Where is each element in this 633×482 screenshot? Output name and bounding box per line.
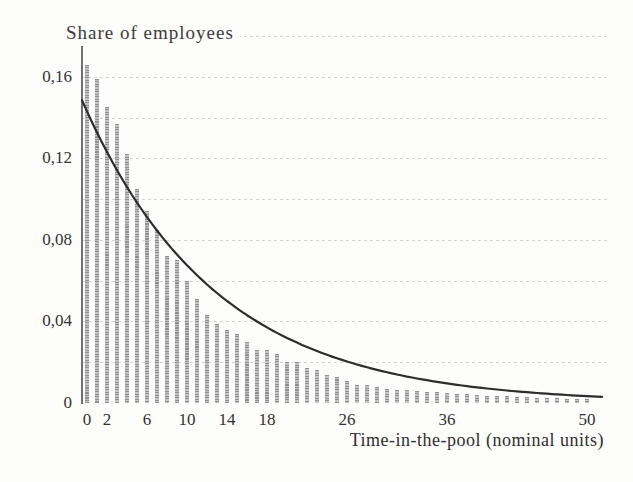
gridline (82, 321, 608, 322)
scanned-chart-figure: Share of employees 00,040,080,120,16 026… (0, 0, 633, 482)
bar (365, 385, 369, 403)
bar (565, 399, 569, 404)
bar (115, 124, 119, 403)
y-axis-tick-label: 0,12 (14, 148, 72, 168)
bar (295, 362, 299, 403)
bar (215, 324, 219, 404)
bar (225, 330, 229, 403)
gridline (82, 240, 608, 241)
bar (255, 350, 259, 403)
bar (275, 354, 279, 403)
bar (495, 396, 499, 403)
bar (145, 211, 149, 403)
bar (265, 350, 269, 403)
bar (545, 398, 549, 403)
gridline (82, 77, 608, 78)
bar (435, 392, 439, 403)
bar (185, 281, 189, 403)
bar (535, 398, 539, 404)
bar (415, 391, 419, 403)
bar (355, 385, 359, 403)
bar (485, 396, 489, 404)
bar (165, 256, 169, 403)
bar (335, 377, 339, 404)
chart-title: Share of employees (66, 22, 240, 46)
x-axis-tick-label: 6 (127, 410, 167, 430)
x-axis-title: Time-in-the-pool (nominal units) (350, 430, 604, 451)
bar (325, 375, 329, 404)
bar (95, 79, 99, 403)
bar (505, 396, 509, 403)
gridline (82, 118, 608, 119)
bar (405, 390, 409, 403)
gridline (82, 158, 608, 159)
gridline (82, 362, 608, 363)
bar (455, 394, 459, 403)
bar (555, 398, 559, 403)
bar (345, 381, 349, 403)
y-axis-tick-label: 0 (14, 393, 72, 413)
x-axis-tick-label: 26 (327, 410, 367, 430)
gridline (82, 281, 608, 282)
x-axis-tick-label: 10 (167, 410, 207, 430)
bar (175, 260, 179, 403)
y-axis-tick-label: 0,04 (14, 311, 72, 331)
gridline (82, 199, 608, 200)
bar (375, 387, 379, 403)
bar (85, 65, 89, 404)
bar (285, 362, 289, 403)
x-axis-tick-label: 36 (427, 410, 467, 430)
bar (585, 399, 589, 403)
bar (195, 299, 199, 403)
bar (305, 368, 309, 403)
x-axis-tick-label: 14 (207, 410, 247, 430)
y-axis-line (81, 36, 83, 404)
bar (105, 107, 109, 403)
bar (425, 392, 429, 403)
bar (525, 397, 529, 403)
bar (125, 154, 129, 403)
bar (575, 399, 579, 403)
bar (465, 394, 469, 403)
bar (385, 389, 389, 403)
bar (155, 230, 159, 403)
bar (515, 397, 519, 403)
bar (235, 334, 239, 403)
bar (315, 370, 319, 403)
bar (205, 315, 209, 403)
bar (445, 393, 449, 403)
bar (395, 390, 399, 403)
y-axis-tick-label: 0,16 (14, 67, 72, 87)
x-axis-tick-label: 2 (87, 410, 127, 430)
x-axis-tick-label: 18 (247, 410, 287, 430)
x-axis-tick-label: 50 (567, 410, 607, 430)
y-axis-tick-label: 0,08 (14, 230, 72, 250)
bar (475, 395, 479, 403)
bar (245, 342, 249, 403)
bar (135, 189, 139, 403)
